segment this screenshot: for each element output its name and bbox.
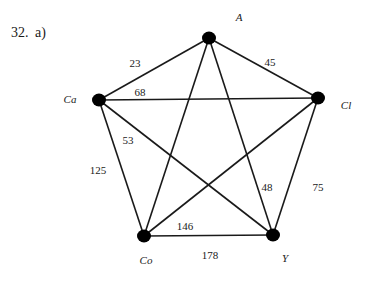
edge-weight-label: 48 [262, 181, 274, 193]
node-ca [92, 94, 106, 107]
edge-weight-label: 178 [202, 249, 219, 261]
node-cl [311, 92, 325, 105]
node-label-co: Co [140, 254, 153, 266]
edge-weight-label: 125 [90, 164, 107, 176]
edge-ca-y [99, 100, 273, 235]
weighted-graph-diagram: 234568531254875146178 ACaClCoY [0, 0, 377, 288]
node-label-cl: Cl [341, 99, 351, 111]
edge-cl-y [273, 98, 318, 235]
node-label-ca: Ca [64, 93, 77, 105]
node-a [202, 32, 216, 45]
edge-ca-cl [99, 98, 318, 100]
edge-weight-label: 23 [130, 57, 142, 69]
node-y [266, 229, 280, 242]
graph-node-labels: ACaClCoY [64, 11, 352, 266]
edge-weight-label: 53 [123, 134, 135, 146]
edge-co-y [144, 235, 273, 236]
edge-weight-label: 68 [135, 86, 147, 98]
edge-cl-co [144, 98, 318, 236]
edge-weight-label: 75 [313, 181, 325, 193]
node-label-a: A [235, 11, 243, 23]
graph-edge-weights: 234568531254875146178 [90, 56, 324, 261]
edge-a-co [144, 38, 209, 236]
edge-weight-label: 45 [265, 56, 277, 68]
node-co [137, 230, 151, 243]
edge-weight-label: 146 [177, 220, 194, 232]
node-label-y: Y [282, 252, 290, 264]
